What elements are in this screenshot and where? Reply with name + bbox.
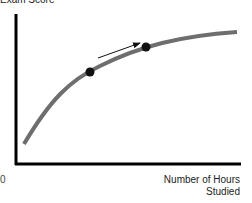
data-point-2 xyxy=(142,43,151,52)
data-point-1 xyxy=(86,68,95,77)
curve-line xyxy=(24,32,237,144)
chart-canvas xyxy=(0,0,252,203)
